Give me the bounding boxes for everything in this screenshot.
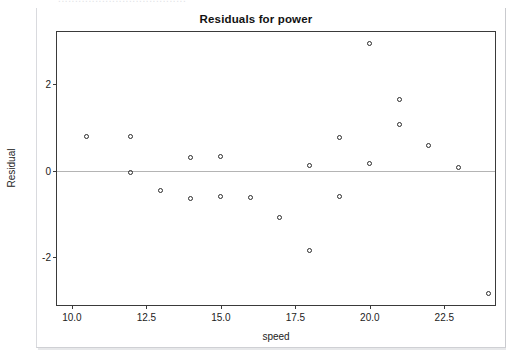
data-point [367, 161, 372, 166]
x-tick-label: 22.5 [435, 312, 454, 323]
y-tick-label: 2 [45, 79, 51, 90]
data-point [426, 143, 431, 148]
data-point [218, 194, 223, 199]
y-tick-label: 0 [45, 165, 51, 176]
plot-frame: 20-210.012.515.017.520.022.5 [56, 31, 496, 306]
data-point [486, 291, 491, 296]
data-point [128, 134, 133, 139]
zero-reference-line [57, 171, 495, 172]
data-point [188, 155, 193, 160]
x-tick-label: 12.5 [137, 312, 156, 323]
data-point [277, 215, 282, 220]
data-point [128, 170, 133, 175]
data-point [218, 154, 223, 159]
data-point [456, 165, 461, 170]
data-point [307, 163, 312, 168]
data-point [307, 248, 312, 253]
plot-inner [57, 32, 495, 305]
data-point [188, 196, 193, 201]
x-tick-mark [444, 305, 445, 309]
x-tick-label: 10.0 [62, 312, 81, 323]
data-point [337, 194, 342, 199]
data-point [397, 97, 402, 102]
y-tick-label: -2 [42, 252, 51, 263]
x-tick-mark [72, 305, 73, 309]
x-tick-mark [146, 305, 147, 309]
y-tick-mark [53, 171, 57, 172]
data-point [367, 41, 372, 46]
x-tick-mark [370, 305, 371, 309]
residual-scatter-chart: Residuals for power Residual 20-210.012.… [0, 0, 512, 364]
data-point [158, 188, 163, 193]
x-axis-title: speed [262, 331, 289, 342]
data-point [84, 134, 89, 139]
y-tick-mark [53, 257, 57, 258]
x-tick-label: 17.5 [286, 312, 305, 323]
x-tick-label: 15.0 [211, 312, 230, 323]
data-point [248, 195, 253, 200]
data-point [337, 135, 342, 140]
y-axis-title: Residual [6, 149, 17, 188]
x-tick-mark [295, 305, 296, 309]
x-tick-mark [221, 305, 222, 309]
data-point [397, 122, 402, 127]
chart-title: Residuals for power [0, 13, 512, 25]
x-tick-label: 20.0 [360, 312, 379, 323]
y-tick-mark [53, 84, 57, 85]
